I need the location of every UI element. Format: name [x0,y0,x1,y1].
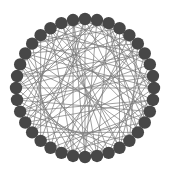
graph-node [11,70,23,82]
graph-node [139,47,151,59]
graph-node [44,22,56,34]
graph-node [10,82,22,94]
graph-node [67,14,79,26]
graph-node [79,13,91,25]
graph-node [102,17,114,29]
graph-node [55,147,67,159]
graph-node [14,105,26,117]
graph-node [91,14,103,26]
graph-node [79,151,91,163]
graph-node [67,150,79,162]
graph-node [19,116,31,128]
graph-node [147,94,159,106]
graph-node [144,58,156,70]
graph-node [147,70,159,82]
network-graph [0,0,169,175]
graph-node [102,147,114,159]
graph-node [144,105,156,117]
graph-node [113,142,125,154]
graph-node [11,94,23,106]
graph-node [55,17,67,29]
graph-node [14,58,26,70]
graph-node [148,82,160,94]
graph-node [91,150,103,162]
